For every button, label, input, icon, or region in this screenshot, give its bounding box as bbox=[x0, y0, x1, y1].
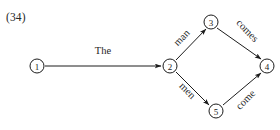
node-2: 2 bbox=[163, 59, 177, 73]
node-3: 3 bbox=[204, 15, 218, 29]
node-5-label: 5 bbox=[214, 107, 219, 117]
edge-label-the: The bbox=[95, 45, 112, 56]
edge-label-men: men bbox=[177, 80, 198, 101]
edge-group bbox=[45, 28, 261, 105]
transition-network-diagram: The man comes men come 1 2 3 4 bbox=[0, 0, 280, 130]
edge-label-come: come bbox=[234, 87, 258, 111]
node-1: 1 bbox=[30, 59, 44, 73]
node-2-label: 2 bbox=[168, 62, 173, 72]
edge-label-group: The man comes men come bbox=[95, 17, 261, 111]
edge-label-comes: comes bbox=[234, 17, 261, 44]
node-4: 4 bbox=[260, 59, 274, 73]
node-3-label: 3 bbox=[209, 18, 214, 28]
figure-canvas: (34) The man comes men come 1 bbox=[0, 0, 280, 130]
node-5: 5 bbox=[209, 104, 223, 118]
edge-label-man: man bbox=[171, 27, 192, 48]
node-4-label: 4 bbox=[265, 62, 270, 72]
node-1-label: 1 bbox=[35, 62, 40, 72]
